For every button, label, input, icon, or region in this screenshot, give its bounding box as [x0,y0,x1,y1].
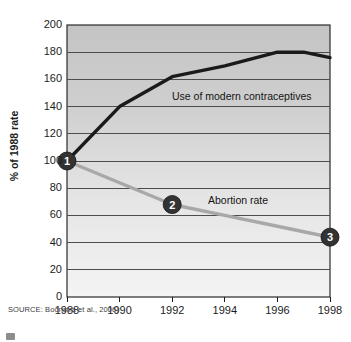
y-axis-title: % of 1988 rate [8,106,20,186]
y-tick-200: 200 [28,18,62,30]
svg-text:2: 2 [169,199,175,211]
y-tick-20: 20 [28,263,62,275]
data-marker-3: 3 [321,228,339,246]
series-label-contraceptives: Use of modern contraceptives [172,90,311,102]
y-tick-160: 160 [28,72,62,84]
x-tick-1996: 1996 [257,304,297,316]
svg-text:1: 1 [64,155,70,167]
y-tick-0: 0 [28,290,62,302]
y-tick-120: 120 [28,127,62,139]
x-tick-1992: 1992 [152,304,192,316]
y-tick-40: 40 [28,236,62,248]
data-marker-2: 2 [163,196,181,214]
series-label-abortion: Abortion rate [208,194,268,206]
y-tick-140: 140 [28,100,62,112]
y-tick-80: 80 [28,181,62,193]
x-tick-1998: 1998 [310,304,350,316]
svg-text:3: 3 [327,231,333,243]
x-axis-tick-marks [67,297,330,302]
source-note: SOURCE: Boonstra et al., 2006) [8,305,119,314]
y-tick-100: 100 [28,154,62,166]
page-artifact-stub [6,333,15,340]
x-tick-1994: 1994 [205,304,245,316]
y-tick-60: 60 [28,208,62,220]
y-tick-180: 180 [28,45,62,57]
chart-figure: 123 % of 1988 rate 200180160140120100806… [0,0,351,342]
